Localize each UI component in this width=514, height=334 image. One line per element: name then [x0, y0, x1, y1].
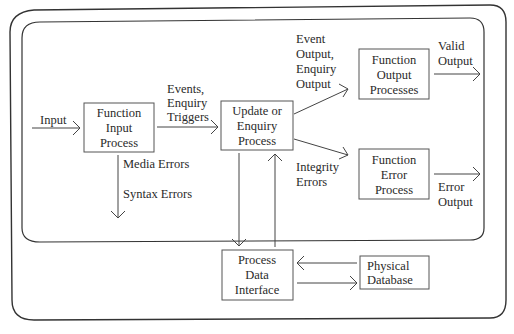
- edge-label: Input: [40, 113, 67, 127]
- edge-input: Input: [32, 113, 80, 135]
- node-label: Function: [372, 153, 417, 167]
- node-label: Error: [381, 168, 408, 182]
- edge-label: Event: [296, 32, 326, 46]
- node-label: Update or: [232, 104, 282, 118]
- node-function-output-processes: Function Output Processes: [359, 49, 429, 99]
- node-physical-database: Physical Database: [360, 256, 429, 289]
- process-flow-diagram: Function Input Process Update or Enquiry…: [0, 0, 514, 334]
- node-label: Input: [106, 121, 133, 135]
- node-label: Enquiry: [237, 119, 278, 133]
- node-label: Process: [375, 183, 413, 197]
- edge-valid-output: Valid Output: [434, 39, 480, 81]
- edge-label: Output: [296, 77, 331, 91]
- node-function-error-process: Function Error Process: [359, 149, 429, 199]
- node-label: Data: [245, 268, 269, 282]
- edge-label: Events,: [167, 82, 204, 96]
- node-label: Process: [100, 136, 138, 150]
- edge-label: Output: [438, 54, 473, 68]
- edge-label: Syntax Errors: [123, 187, 192, 201]
- edge-label: Error: [438, 180, 465, 194]
- edge-label: Valid: [438, 39, 465, 53]
- node-process-data-interface: Process Data Interface: [222, 250, 293, 300]
- edge-label: Media Errors: [123, 157, 189, 171]
- node-label: Process: [238, 134, 276, 148]
- node-label: Process: [238, 253, 276, 267]
- edge-update-to-data-interface: [232, 153, 246, 246]
- node-label: Function: [372, 53, 417, 67]
- edge-data-interface-to-update: [268, 154, 282, 247]
- edge-label: Output,: [296, 47, 334, 61]
- node-label: Physical: [367, 259, 410, 273]
- edge-label: Triggers: [167, 110, 209, 124]
- node-label: Output: [377, 68, 412, 82]
- node-label: Interface: [235, 283, 280, 297]
- node-update-enquiry-process: Update or Enquiry Process: [221, 101, 293, 150]
- node-label: Processes: [370, 83, 419, 97]
- arrowhead-icon: [339, 84, 348, 97]
- edge-interface-to-database: [297, 276, 357, 290]
- edge-event-enquiry-output: Event Output, Enquiry Output: [294, 32, 348, 114]
- node-label: Function: [97, 106, 142, 120]
- edge-media-syntax-errors: Media Errors Syntax Errors: [111, 155, 192, 218]
- edge-label: Enquiry: [167, 96, 208, 110]
- edge-label: Output: [438, 195, 473, 209]
- node-function-input-process: Function Input Process: [84, 103, 154, 152]
- node-label: Database: [367, 273, 413, 287]
- edge-label: Integrity: [296, 160, 340, 174]
- edge-error-output: Error Output: [434, 167, 480, 209]
- edge-label: Errors: [296, 175, 327, 189]
- edge-label: Enquiry: [296, 62, 337, 76]
- edge-events-enquiry-triggers: Events, Enquiry Triggers: [157, 82, 218, 134]
- edge-integrity-errors: Integrity Errors: [294, 139, 348, 189]
- edge-database-to-interface: [297, 256, 357, 270]
